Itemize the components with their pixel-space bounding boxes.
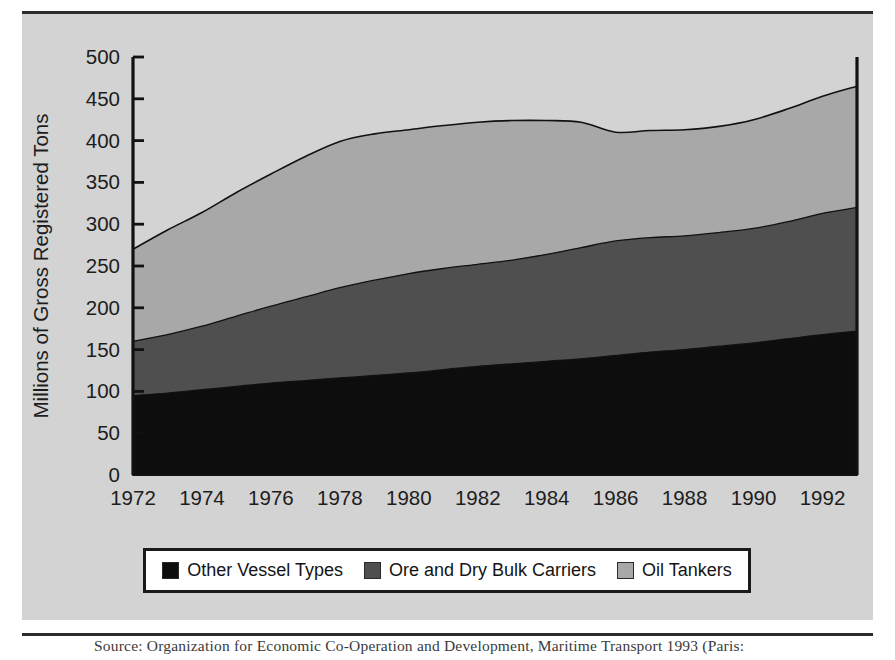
y-tick-label: 200 <box>86 296 120 319</box>
y-tick-label: 450 <box>86 87 120 110</box>
figure-root: 050100150200250300350400450500 197219741… <box>0 0 895 660</box>
chart-legend: Other Vessel TypesOre and Dry Bulk Carri… <box>143 548 751 593</box>
legend-swatch-icon <box>364 562 381 579</box>
x-tick-label: 1980 <box>386 486 432 509</box>
y-tick-label-layer: 050100150200250300350400450500 <box>86 45 120 486</box>
y-tick-label: 0 <box>109 463 120 486</box>
x-tick-label: 1978 <box>317 486 363 509</box>
x-tick-label: 1974 <box>179 486 225 509</box>
x-tick-label: 1992 <box>800 486 846 509</box>
y-tick-label: 50 <box>97 421 120 444</box>
y-axis-title-layer: Millions of Gross Registered Tons <box>29 114 52 419</box>
x-tick-label: 1976 <box>248 486 294 509</box>
legend-swatch-icon <box>617 562 634 579</box>
legend-label: Ore and Dry Bulk Carriers <box>389 560 596 581</box>
figure-caption-strip: Source: Organization for Economic Co-Ope… <box>22 640 873 660</box>
y-tick-label: 300 <box>86 212 120 235</box>
x-tick-label: 1988 <box>662 486 708 509</box>
y-axis-title: Millions of Gross Registered Tons <box>29 114 52 419</box>
x-tick-label: 1982 <box>455 486 501 509</box>
legend-label: Other Vessel Types <box>187 560 343 581</box>
y-tick-label: 100 <box>86 379 120 402</box>
x-tick-label-layer: 1972197419761978198019821984198619881990… <box>110 486 845 509</box>
area-series-layer <box>133 86 857 475</box>
legend-entry: Other Vessel Types <box>162 560 343 581</box>
x-tick-label: 1990 <box>731 486 777 509</box>
legend-swatch-icon <box>162 562 179 579</box>
y-tick-label: 150 <box>86 338 120 361</box>
y-tick-label: 350 <box>86 170 120 193</box>
figure-caption: Source: Organization for Economic Co-Ope… <box>94 640 873 655</box>
y-tick-label: 400 <box>86 129 120 152</box>
x-tick-label: 1984 <box>524 486 570 509</box>
legend-label: Oil Tankers <box>642 560 732 581</box>
x-tick-label: 1986 <box>593 486 639 509</box>
y-tick-label: 500 <box>86 45 120 68</box>
legend-entry: Ore and Dry Bulk Carriers <box>364 560 596 581</box>
y-tick-label: 250 <box>86 254 120 277</box>
legend-entry: Oil Tankers <box>617 560 732 581</box>
x-tick-label: 1972 <box>110 486 156 509</box>
